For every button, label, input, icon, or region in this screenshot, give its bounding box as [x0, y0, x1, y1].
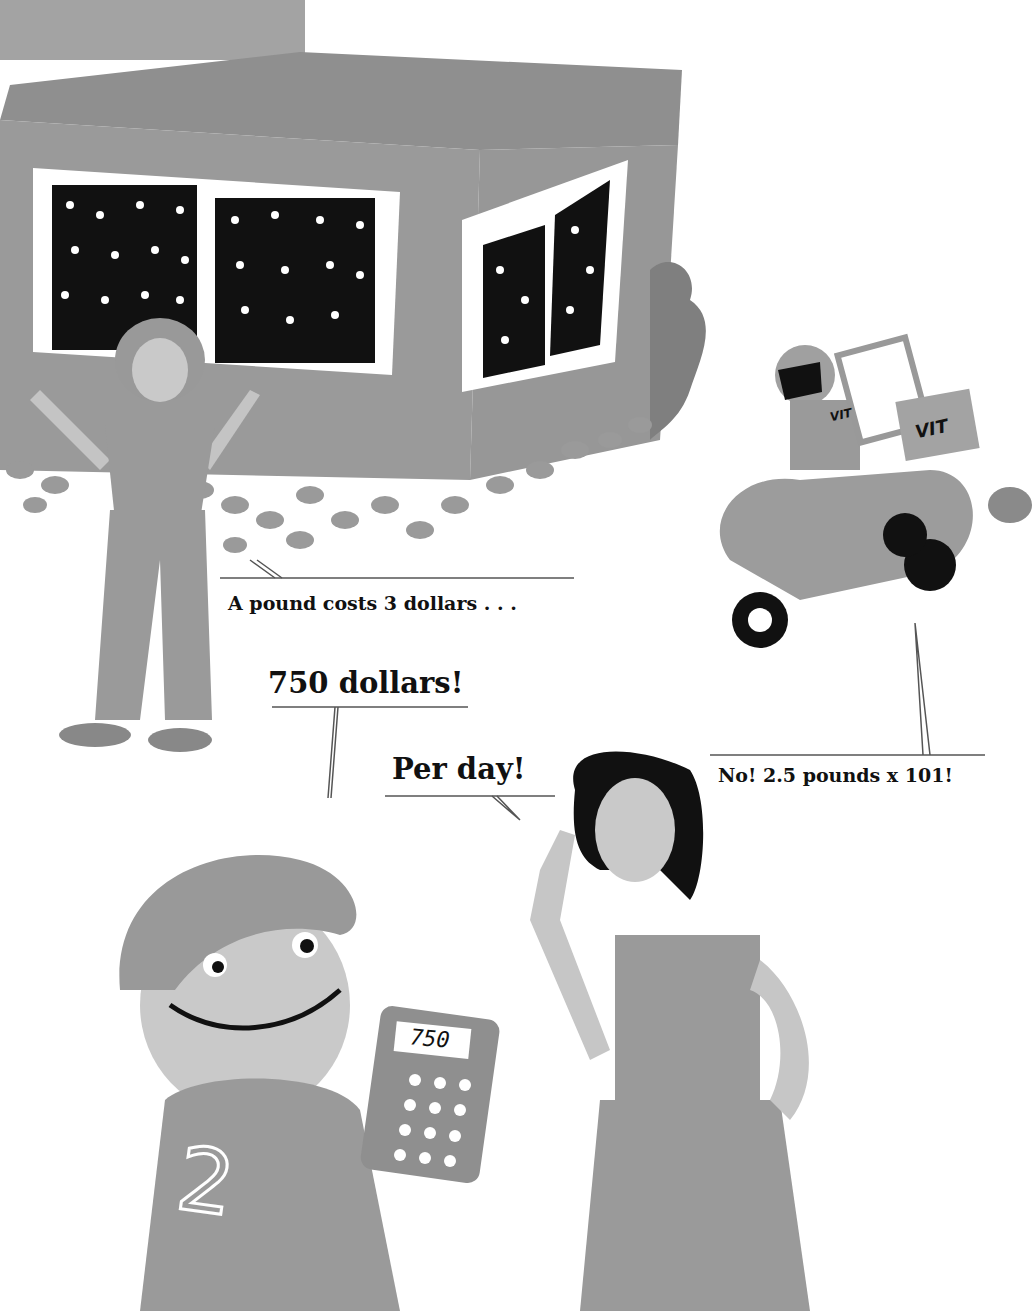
girl-pants	[580, 1100, 810, 1311]
bush	[650, 262, 706, 440]
girl-face	[595, 778, 675, 882]
woman-shoe	[59, 723, 131, 747]
exhaust-cloud	[988, 487, 1032, 523]
illustration-scene	[0, 0, 1032, 1311]
house-upper-wall	[0, 0, 305, 60]
boy-figure	[119, 855, 501, 1311]
girl-figure	[530, 752, 810, 1311]
boy-eye	[300, 939, 314, 953]
woman-shoe	[148, 728, 212, 752]
caption-woman: A pound costs 3 dollars . . .	[228, 592, 517, 614]
woman-pants	[95, 510, 212, 720]
woman-face	[132, 338, 188, 402]
boy-eye	[212, 961, 224, 973]
delivery-rider	[720, 337, 1032, 648]
calculator-display-value: 750	[409, 1024, 451, 1052]
scooter-vent	[883, 513, 927, 557]
caption-girl: Per day!	[392, 752, 526, 786]
window-pattern	[215, 198, 375, 363]
girl-top	[615, 935, 760, 1100]
window-pattern	[483, 225, 545, 378]
caption-boy: 750 dollars!	[268, 666, 463, 700]
caption-rider: No! 2.5 pounds x 101!	[718, 764, 953, 786]
woman-shirt	[105, 425, 215, 520]
